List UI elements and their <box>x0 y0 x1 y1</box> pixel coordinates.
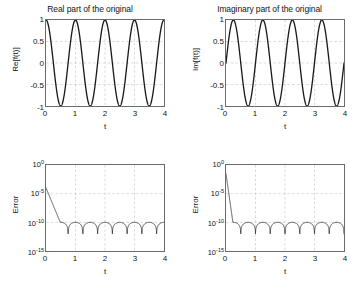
x-tick-imag-4: 4 <box>343 109 347 118</box>
subplot-error-real: Error 100 10-5 10-10 10-15 0 1 2 <box>0 148 180 293</box>
x-tick-err-imag-2: 2 <box>283 254 287 263</box>
y-tick-labels-imaginary: 1 0.5 0 -0.5 -1 <box>194 19 224 107</box>
x-tick-imag-2: 2 <box>283 109 287 118</box>
x-tick-err-imag-0: 0 <box>223 254 227 263</box>
subplot-real-part: Real part of the original Re[f(t)] 1 0.5… <box>0 0 180 148</box>
y-tick-imag-1: 0.5 <box>198 37 224 46</box>
plot-area-imaginary <box>225 19 345 107</box>
plot-area-error-real <box>45 164 165 252</box>
y-tick-imag-0: 1 <box>198 15 224 24</box>
plot-svg-imaginary <box>226 20 344 106</box>
x-tick-real-0: 0 <box>43 109 47 118</box>
gridlines-error-imaginary <box>226 165 344 251</box>
y-tick-imag-3: -0.5 <box>198 81 224 90</box>
y-tick-labels-error-imaginary: 100 10-5 10-10 10-15 <box>188 164 224 252</box>
x-tick-err-imag-3: 3 <box>313 254 317 263</box>
y-tick-err-real-1: 10-5 <box>12 188 44 199</box>
x-tick-err-real-2: 2 <box>103 254 107 263</box>
figure-canvas: Real part of the original Re[f(t)] 1 0.5… <box>0 0 359 293</box>
subplot-title-imaginary: Imaginary part of the original <box>180 4 359 14</box>
x-tick-real-1: 1 <box>73 109 77 118</box>
subplot-error-imaginary: Error 100 10-5 10-10 10-15 0 1 2 <box>180 148 359 293</box>
subplot-imaginary-part: Imaginary part of the original Im[f(t)] … <box>180 0 359 148</box>
x-axis-label-error-imaginary: t <box>225 267 345 276</box>
plot-area-real <box>45 19 165 107</box>
x-tick-imag-0: 0 <box>223 109 227 118</box>
x-tick-labels-error-imaginary: 0 1 2 3 4 <box>225 254 345 266</box>
x-tick-err-real-0: 0 <box>43 254 47 263</box>
y-tick-imag-4: -1 <box>198 103 224 112</box>
x-tick-err-real-1: 1 <box>73 254 77 263</box>
y-tick-real-0: 1 <box>18 15 44 24</box>
y-tick-err-imag-3: 10-15 <box>192 247 224 258</box>
x-tick-real-4: 4 <box>163 109 167 118</box>
y-tick-real-4: -1 <box>18 103 44 112</box>
y-tick-real-3: -0.5 <box>18 81 44 90</box>
x-tick-err-imag-4: 4 <box>343 254 347 263</box>
y-tick-labels-error-real: 100 10-5 10-10 10-15 <box>8 164 44 252</box>
y-tick-err-imag-2: 10-10 <box>192 217 224 228</box>
x-tick-labels-imaginary: 0 1 2 3 4 <box>225 109 345 121</box>
y-tick-err-real-0: 100 <box>12 159 44 170</box>
gridlines-real <box>46 20 164 106</box>
x-tick-imag-1: 1 <box>253 109 257 118</box>
x-tick-imag-3: 3 <box>313 109 317 118</box>
y-tick-imag-2: 0 <box>198 59 224 68</box>
y-tick-err-imag-0: 100 <box>192 159 224 170</box>
x-axis-label-imaginary: t <box>225 122 345 131</box>
plot-area-error-imaginary <box>225 164 345 252</box>
x-tick-err-real-4: 4 <box>163 254 167 263</box>
y-tick-err-imag-1: 10-5 <box>192 188 224 199</box>
x-axis-label-real: t <box>45 122 165 131</box>
x-tick-labels-error-real: 0 1 2 3 4 <box>45 254 165 266</box>
x-tick-err-real-3: 3 <box>133 254 137 263</box>
y-tick-real-1: 0.5 <box>18 37 44 46</box>
x-tick-err-imag-1: 1 <box>253 254 257 263</box>
x-tick-real-2: 2 <box>103 109 107 118</box>
x-tick-real-3: 3 <box>133 109 137 118</box>
x-axis-label-error-real: t <box>45 267 165 276</box>
y-tick-err-real-2: 10-10 <box>12 217 44 228</box>
x-tick-labels-real: 0 1 2 3 4 <box>45 109 165 121</box>
plot-svg-real <box>46 20 164 106</box>
y-tick-real-2: 0 <box>18 59 44 68</box>
y-tick-labels-real: 1 0.5 0 -0.5 -1 <box>14 19 44 107</box>
plot-svg-error-imaginary <box>226 165 344 251</box>
y-tick-err-real-3: 10-15 <box>12 247 44 258</box>
plot-svg-error-real <box>46 165 164 251</box>
gridlines-error-real <box>46 165 164 251</box>
subplot-title-real: Real part of the original <box>0 4 180 14</box>
